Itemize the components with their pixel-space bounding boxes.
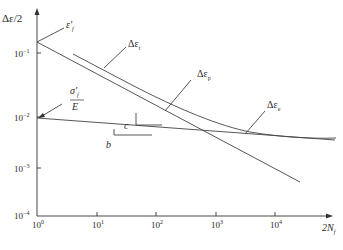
strain-life-chart: Δε/2 10−1 10−2 10−3 10−4 100 101 102 103… [0, 0, 343, 250]
x-tick-2: 102 [151, 219, 163, 230]
leader-sigma-f [42, 104, 62, 116]
elastic-strain-label: Δεe [267, 99, 281, 112]
y-tick-4: 10−4 [14, 210, 29, 221]
total-strain-curve [73, 54, 336, 138]
x-axis-arrow-icon [326, 214, 333, 219]
E-label: E [71, 101, 78, 112]
y-axis-arrow-icon [35, 8, 40, 15]
slope-b-label: b [106, 139, 111, 150]
y-tick-3: 10−3 [14, 163, 29, 174]
x-tick-1: 101 [92, 219, 104, 230]
leader-dt [104, 47, 126, 68]
sigma-f-label: σ'f [70, 85, 80, 98]
x-tick-4: 104 [270, 219, 282, 230]
slope-c-label: c [124, 120, 129, 131]
plastic-strain-label: Δεp [197, 68, 211, 81]
leader-dp [165, 80, 191, 111]
leader-eps-f [37, 28, 64, 42]
leader-de [245, 111, 265, 134]
slope-triangle-b [114, 129, 152, 135]
total-strain-label: Δεt [128, 38, 141, 51]
y-tick-2: 10−2 [14, 112, 29, 123]
y-tick-1: 10−1 [14, 48, 29, 59]
x-tick-0: 100 [32, 219, 44, 230]
plastic-strain-line [37, 42, 300, 182]
y-axis-label: Δε/2 [2, 12, 22, 24]
slope-triangle-c [136, 113, 162, 125]
eps-f-label: ε'f [66, 19, 75, 32]
x-tick-3: 103 [211, 219, 223, 230]
sigma-arrow-icon [38, 113, 45, 118]
x-axis-label: 2Nf [322, 222, 337, 235]
